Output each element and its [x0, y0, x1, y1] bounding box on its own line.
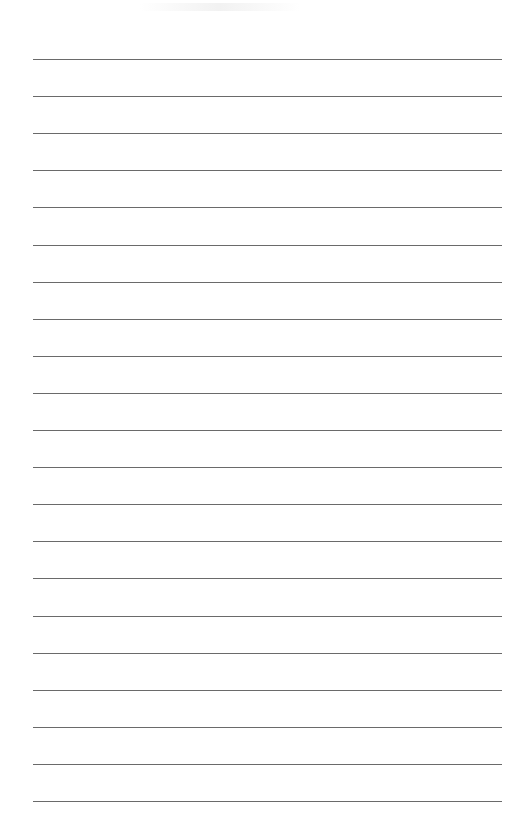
lined-paper-page [0, 0, 523, 838]
ruled-line [33, 245, 502, 246]
ruled-line [33, 764, 502, 765]
ruled-line [33, 653, 502, 654]
ruled-line [33, 504, 502, 505]
ruled-line [33, 319, 502, 320]
ruled-line [33, 467, 502, 468]
ruled-line [33, 170, 502, 171]
ruled-line [33, 727, 502, 728]
ruled-line [33, 59, 502, 60]
ruled-line [33, 133, 502, 134]
ruled-line [33, 96, 502, 97]
ruled-line [33, 690, 502, 691]
ruled-line [33, 801, 502, 802]
ruled-line [33, 616, 502, 617]
ruled-line [33, 356, 502, 357]
ruled-line [33, 282, 502, 283]
ruled-line [33, 393, 502, 394]
ruled-line [33, 430, 502, 431]
ruled-line [33, 578, 502, 579]
ruled-line [33, 207, 502, 208]
bleed-through-smudge [140, 3, 300, 11]
ruled-line [33, 541, 502, 542]
